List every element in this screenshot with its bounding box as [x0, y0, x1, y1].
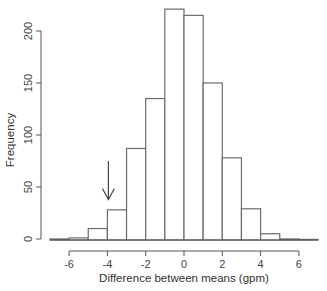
y-tick-label: 50	[22, 181, 34, 193]
x-tick-label: 6	[296, 258, 302, 270]
x-tick-label: -2	[141, 258, 151, 270]
histogram-bar	[184, 15, 203, 240]
x-tick-label: -4	[103, 258, 113, 270]
histogram-chart: 050100150200 -6-4-20246 Difference betwe…	[0, 0, 327, 291]
histogram-bars	[50, 9, 318, 240]
histogram-bar	[146, 99, 165, 240]
y-tick-label: 100	[22, 126, 34, 144]
x-axis-title: Difference between means (gpm)	[99, 272, 269, 284]
histogram-bar	[222, 158, 241, 240]
y-axis: 050100150200	[22, 22, 41, 242]
x-tick-label: 2	[219, 258, 225, 270]
arrow-annotation	[102, 161, 114, 199]
histogram-bar	[261, 234, 280, 240]
y-tick-label: 150	[22, 74, 34, 92]
x-tick-label: 4	[258, 258, 264, 270]
x-axis: -6-4-20246	[64, 251, 302, 270]
x-tick-label: -6	[64, 258, 74, 270]
y-axis-title: Frequency	[4, 113, 16, 168]
x-tick-label: 0	[181, 258, 187, 270]
y-tick-label: 200	[22, 22, 34, 40]
histogram-bar	[127, 148, 146, 240]
histogram-bar	[165, 9, 184, 240]
histogram-bar	[203, 83, 222, 240]
histogram-bar	[88, 229, 107, 240]
y-tick-label: 0	[22, 236, 34, 242]
histogram-bar	[107, 210, 126, 240]
histogram-bar	[241, 209, 260, 240]
